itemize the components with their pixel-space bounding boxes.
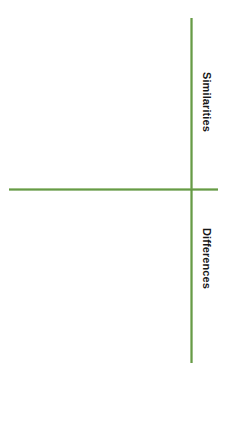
horizontal-divider-line	[9, 188, 218, 191]
section-label-differences: Differences	[201, 228, 212, 289]
section-label-similarities: Similarities	[201, 72, 212, 132]
organizer-canvas: Similarities Differences	[0, 0, 232, 426]
